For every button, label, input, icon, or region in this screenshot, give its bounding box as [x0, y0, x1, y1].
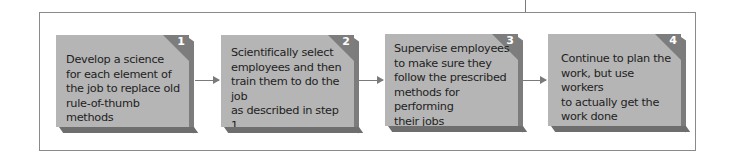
step-box-1: 1 Develop a science for each element of …	[56, 35, 189, 127]
box-side-bottom	[388, 126, 527, 132]
arrow-1-to-2	[195, 80, 219, 81]
arrow-head-icon	[213, 76, 220, 84]
arrow-3-to-4	[522, 80, 546, 81]
box-side-bottom	[224, 127, 363, 133]
step-box-2: 2 Scientifically select employees and th…	[221, 35, 354, 127]
step-number: 4	[669, 35, 677, 47]
box-side-bottom	[59, 127, 198, 133]
connector-line	[525, 0, 526, 12]
step-number: 1	[177, 36, 185, 48]
box-side-right	[354, 38, 359, 134]
arrow-head-icon	[377, 76, 384, 84]
step-text: Continue to plan the work, but use worke…	[561, 52, 673, 125]
box-side-right	[189, 38, 194, 134]
step-text: Supervise employees to make sure they fo…	[394, 42, 510, 126]
box-face: 2 Scientifically select employees and th…	[221, 35, 354, 127]
step-box-3: 3 Supervise employees to make sure they …	[385, 34, 518, 126]
step-text: Develop a science for each element of th…	[66, 53, 181, 126]
box-side-bottom	[551, 126, 690, 132]
box-face: 3 Supervise employees to make sure they …	[385, 34, 518, 126]
step-box-4: 4 Continue to plan the work, but use wor…	[548, 34, 681, 126]
box-side-right	[681, 37, 686, 133]
box-face: 1 Develop a science for each element of …	[56, 35, 189, 127]
arrow-2-to-3	[359, 80, 383, 81]
step-text: Scientifically select employees and then…	[231, 46, 346, 127]
box-face: 4 Continue to plan the work, but use wor…	[548, 34, 681, 126]
box-side-right	[518, 37, 523, 133]
arrow-head-icon	[540, 76, 547, 84]
